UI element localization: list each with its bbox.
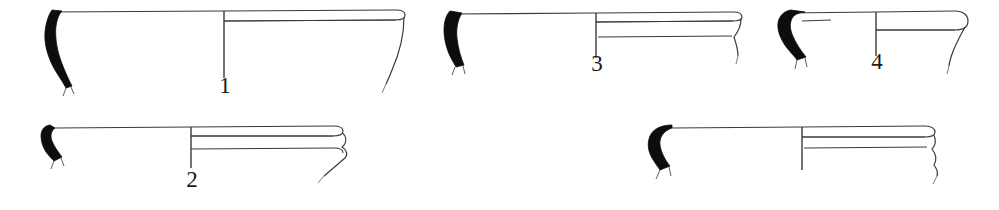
- figure-3-outer-rim: [596, 12, 742, 22]
- figure-5-rim-band-line-lower: [804, 147, 927, 148]
- figure-4-outer-rim: [876, 11, 968, 30]
- pottery-figure-1: 1: [0, 0, 440, 110]
- figure-5-section-fill: [648, 125, 672, 170]
- figure-3-wall-line: [734, 19, 741, 56]
- figure-2-wall-break-hatch: [318, 176, 324, 183]
- figure-3-lower-band-line: [598, 36, 732, 37]
- figure-2-outer-rim: [191, 126, 343, 136]
- figure-5-rim-line: [672, 127, 802, 128]
- figure-1-section-fill: [45, 10, 72, 88]
- figure-3-section-fill: [444, 11, 464, 67]
- figure-4-section-fill: [778, 10, 806, 60]
- figure-1-rim-band-line: [224, 20, 396, 21]
- figure-1-rim-line: [52, 11, 224, 12]
- figure-1-outer-rim: [224, 10, 405, 21]
- figure-2-label: 2: [172, 168, 212, 191]
- figure-5-wall-break-hatch: [933, 176, 937, 184]
- figure-3-label: 3: [577, 52, 617, 75]
- figure-1-wall-break-hatch: [382, 84, 386, 93]
- figure-1-label: 1: [205, 74, 245, 97]
- figure-3-drawing: [430, 0, 770, 100]
- figure-2-rim-band-line-lower: [191, 148, 343, 153]
- figure-5-drawing: [620, 105, 999, 210]
- figure-5-wall-line: [932, 135, 937, 176]
- figure-2-drawing: [0, 105, 380, 210]
- figure-3-break-hatch: [452, 66, 465, 75]
- figure-4-section-tick-line: [802, 20, 831, 21]
- figure-1-break-hatch: [63, 87, 74, 96]
- figure-3-wall-break-hatch: [736, 56, 738, 64]
- pottery-figure-2: 2: [0, 105, 380, 210]
- pottery-profile-plate: 1 3 4: [0, 0, 999, 210]
- figure-3-rim-band-line: [596, 21, 733, 22]
- figure-2-rim-line: [55, 127, 191, 128]
- figure-2-wall-line: [324, 158, 345, 176]
- figure-2-moulding-curve: [342, 133, 347, 158]
- pottery-figure-5: 5: [620, 105, 999, 210]
- figure-4-wall-line: [949, 27, 965, 66]
- figure-3-rim-line: [450, 13, 596, 14]
- figure-4-label: 4: [857, 50, 897, 73]
- figure-4-wall-break-hatch: [947, 66, 949, 74]
- figure-2-section-fill: [41, 125, 62, 161]
- pottery-figure-3: 3: [430, 0, 770, 100]
- figure-5-outer-rim: [802, 126, 935, 137]
- pottery-figure-4: 4: [765, 0, 999, 100]
- figure-1-wall-line: [386, 17, 404, 84]
